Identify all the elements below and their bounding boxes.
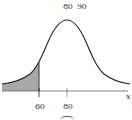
cropped-element xyxy=(60,116,74,120)
tick-label-80: 80 xyxy=(63,103,73,111)
normal-curve xyxy=(2,20,130,84)
annotation-80: 80 xyxy=(63,3,73,11)
x-axis-label: x xyxy=(126,93,130,101)
annotation-90: 90 xyxy=(77,3,87,11)
shaded-left-tail xyxy=(2,62,39,91)
tick-label-60: 60 xyxy=(35,103,45,111)
